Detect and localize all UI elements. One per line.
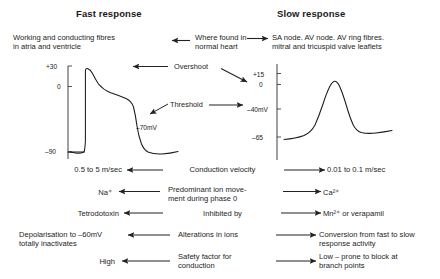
slow-axis-label-minus40mv: –40mV — [247, 106, 268, 113]
slow-axis-label-minus65: –65 — [252, 134, 263, 141]
row-conduction-velocity-left: 0.5 to 5 m/sec — [40, 165, 122, 174]
column-header-fast-response: Fast response — [76, 8, 142, 19]
arrow-threshold-left — [150, 104, 168, 114]
row-predominant-ion-right: Ca²⁺ — [323, 188, 423, 197]
row-where-found-right: SA node. AV node. AV ring fibres. mitral… — [272, 33, 438, 52]
slow-axis-label-plus15: +15 — [253, 71, 264, 78]
row-alterations-in-ions-left: Depolarisation to –60mV totally inactiva… — [19, 230, 164, 249]
row-conduction-velocity-right: 0.01 to 0.1 m/sec — [327, 165, 437, 174]
fast-axis-label-zero: 0 — [57, 83, 61, 90]
slow-response-chart — [277, 64, 392, 160]
row-conduction-velocity-center: Conduction velocity — [170, 165, 275, 174]
row-inhibited-by-right: Mn²⁺ or verapamil — [323, 209, 433, 218]
arrow-overshoot-right — [221, 69, 247, 83]
row-safety-factor-left: High — [60, 257, 115, 266]
fast-axis-label-minus90: –90 — [45, 148, 56, 155]
row-predominant-ion-left: Na⁺ — [60, 188, 112, 197]
row-inhibited-by-center: Inhibited by — [170, 209, 275, 218]
row-safety-factor-center: Safety factor for conduction — [178, 252, 273, 271]
callout-threshold: Threshold — [170, 100, 203, 109]
row-where-found-center: Where found in normal heart — [195, 33, 265, 52]
row-safety-factor-right: Low – prone to block at branch points — [319, 252, 439, 271]
row-alterations-in-ions-center: Alterations in ions — [178, 230, 278, 239]
callout-overshoot: Overshoot — [174, 62, 208, 71]
fast-response-chart — [68, 66, 178, 159]
column-header-slow-response: Slow response — [277, 8, 345, 19]
diagram-canvas: Fast response Slow response Working and … — [0, 0, 440, 279]
row-alterations-in-ions-right: Conversion from fast to slow response ac… — [319, 230, 439, 249]
slow-axis-label-zero: 0 — [259, 81, 263, 88]
fast-axis-label-plus30: +30 — [46, 63, 57, 70]
row-inhibited-by-left: Tetrodotoxin — [40, 209, 119, 218]
fast-trace-label-minus70mv: –70mV — [136, 124, 157, 131]
row-predominant-ion-center: Predominant ion move- ment during phase … — [168, 185, 278, 204]
row-where-found-left: Working and conducting fibres in atria a… — [13, 33, 168, 52]
